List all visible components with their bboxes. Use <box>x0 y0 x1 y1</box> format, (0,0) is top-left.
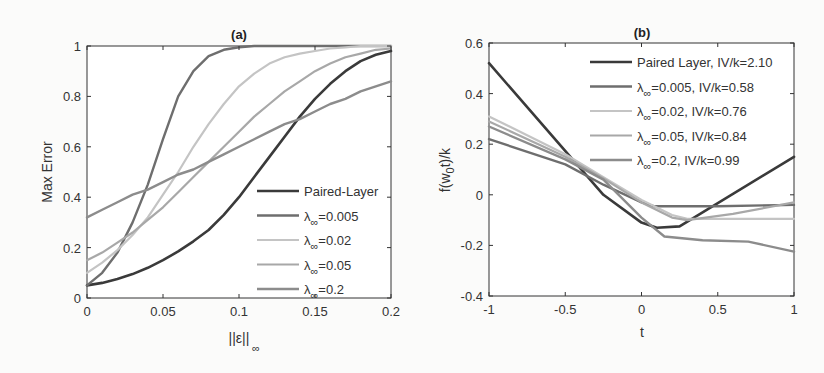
x-tick-label: 1 <box>790 302 797 317</box>
x-tick-label: -0.5 <box>554 302 576 317</box>
x-axis-label-b: t <box>640 324 644 340</box>
legend-label: Paired Layer, IV/k=2.10 <box>637 55 773 70</box>
x-tick-label: 0.15 <box>302 304 327 319</box>
legend-label: Paired-Layer <box>304 184 379 199</box>
x-tick-label: 0 <box>638 302 645 317</box>
y-axis-label-b: f(w0t)/k <box>437 147 456 192</box>
chart-title-b: (b) <box>634 25 651 40</box>
chart-panel-a: (a) 00.050.10.150.200.20.40.60.81 Max Er… <box>39 27 400 354</box>
x-tick-label: 0.1 <box>230 304 248 319</box>
y-tick-label: 0.4 <box>63 190 81 205</box>
x-tick-label: 0.5 <box>709 302 727 317</box>
x-tick-label: -1 <box>483 302 495 317</box>
chart-panel-b: (b) -1-0.500.51-0.4-0.200.20.40.6 f(w0t)… <box>437 25 798 340</box>
y-tick-label: -0.2 <box>461 238 483 253</box>
y-tick-label: 0.8 <box>63 89 81 104</box>
x-tick-label: 0.2 <box>382 304 400 319</box>
y-tick-label: 0 <box>476 188 483 203</box>
x-axis-label-a-sub: ∞ <box>252 342 260 354</box>
y-axis-label-a: Max Error <box>39 141 55 203</box>
x-axis-label-a: ||ε|| ∞ <box>229 330 260 354</box>
y-tick-label: 0.6 <box>465 36 483 51</box>
chart-title-a: (a) <box>231 27 247 42</box>
figure: (a) 00.050.10.150.200.20.40.60.81 Max Er… <box>0 0 824 373</box>
y-tick-label: 0.2 <box>465 137 483 152</box>
y-tick-label: 0.4 <box>465 87 483 102</box>
x-tick-label: 0.05 <box>150 304 175 319</box>
y-tick-label: 1 <box>74 39 81 54</box>
x-axis-label-a-main: ||ε|| <box>229 330 250 346</box>
y-tick-label: 0.6 <box>63 140 81 155</box>
y-tick-label: -0.4 <box>461 289 483 304</box>
y-tick-label: 0.2 <box>63 241 81 256</box>
y-tick-label: 0 <box>74 291 81 306</box>
y-axis-label-b-text: f(w0t)/k <box>437 147 456 192</box>
x-tick-label: 0 <box>83 304 90 319</box>
